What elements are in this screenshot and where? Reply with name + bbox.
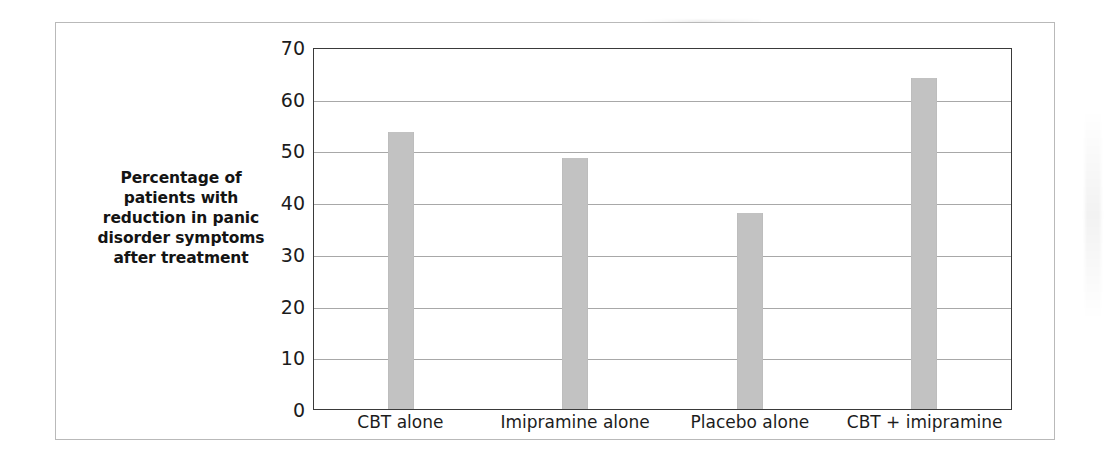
x-tick-label: Placebo alone (663, 412, 838, 432)
y-tick-label: 50 (281, 140, 305, 162)
bar-slot (837, 49, 1011, 409)
bar[interactable] (911, 78, 937, 409)
y-tick-label: 40 (281, 192, 305, 214)
bar[interactable] (737, 213, 763, 410)
scan-artifact-right (1085, 110, 1101, 320)
x-axis-category-labels: CBT aloneImipramine alonePlacebo aloneCB… (313, 412, 1012, 432)
bar[interactable] (562, 158, 588, 409)
y-tick-label: 0 (293, 399, 305, 421)
x-tick-label: CBT + imipramine (837, 412, 1012, 432)
y-tick-label: 60 (281, 89, 305, 111)
y-tick-label: 10 (281, 347, 305, 369)
bar-slot (663, 49, 837, 409)
x-tick-label: Imipramine alone (488, 412, 663, 432)
y-axis-tick-labels: 706050403020100 (248, 48, 305, 410)
y-tick-label: 70 (281, 37, 305, 59)
bar-series (314, 49, 1011, 409)
page-canvas: Percentage of patients with reduction in… (0, 0, 1111, 470)
bar-slot (488, 49, 662, 409)
y-tick-label: 20 (281, 296, 305, 318)
x-tick-label: CBT alone (313, 412, 488, 432)
bar-slot (314, 49, 488, 409)
bar[interactable] (388, 132, 414, 409)
y-tick-label: 30 (281, 244, 305, 266)
plot-area (313, 48, 1012, 410)
